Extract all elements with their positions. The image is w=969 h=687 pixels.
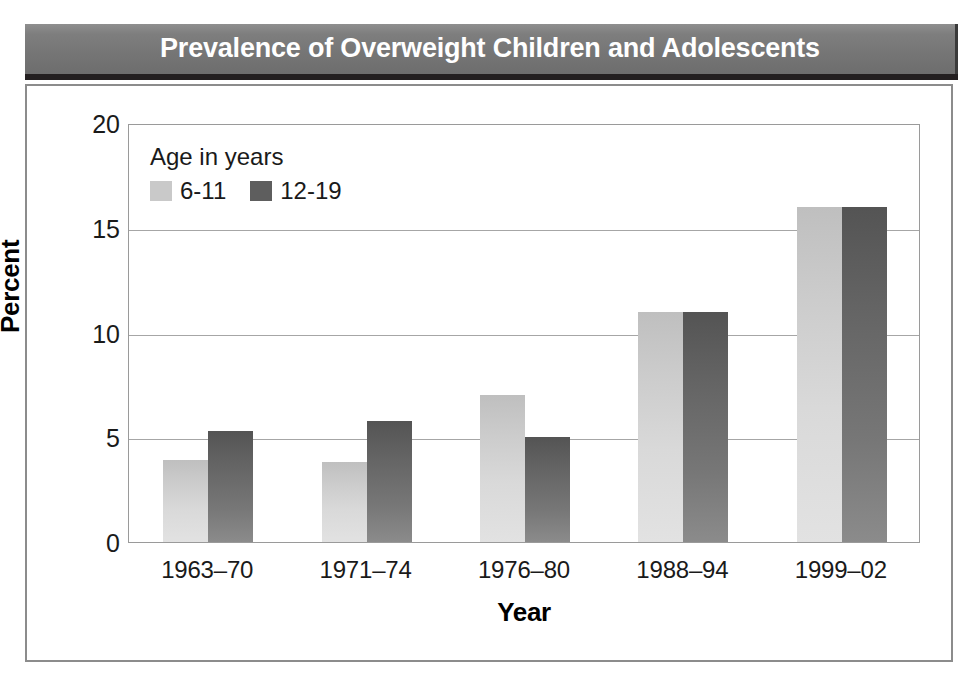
y-axis-tick-label: 0 [72,529,120,558]
bar [367,421,412,543]
y-axis-title: Percent [0,240,26,333]
y-axis-tick-labels: 05101520 [62,124,120,543]
x-axis-tick-label: 1971–74 [320,556,412,584]
bar [797,207,842,542]
legend-title: Age in years [150,143,342,171]
legend-label: 12-19 [280,177,341,205]
legend-entry: 12-19 [250,177,341,205]
bar [525,437,570,542]
bar [163,460,208,542]
legend-label: 6-11 [180,177,226,205]
legend-entry: 6-11 [150,177,226,205]
y-axis-tick-label: 20 [72,110,120,139]
bar [638,312,683,542]
x-axis-tick-label: 1963–70 [161,556,253,584]
x-axis-title: Year [128,597,920,628]
bar [480,395,525,542]
y-axis-tick-label: 15 [72,214,120,243]
legend-swatch [150,181,172,201]
bar [842,207,887,542]
y-axis-tick-label: 10 [72,319,120,348]
chart-legend: Age in years 6-1112-19 [150,143,342,205]
bar [208,431,253,542]
legend-entries: 6-1112-19 [150,177,342,205]
bar [683,312,728,542]
bar [322,462,367,542]
bar-chart: Percent 05101520 1963–701971–741976–8019… [0,0,969,687]
y-axis-tick-label: 5 [72,424,120,453]
x-axis-tick-label: 1988–94 [636,556,728,584]
x-axis-tick-label: 1999–02 [795,556,887,584]
x-axis-tick-label: 1976–80 [478,556,570,584]
legend-swatch [250,181,272,201]
